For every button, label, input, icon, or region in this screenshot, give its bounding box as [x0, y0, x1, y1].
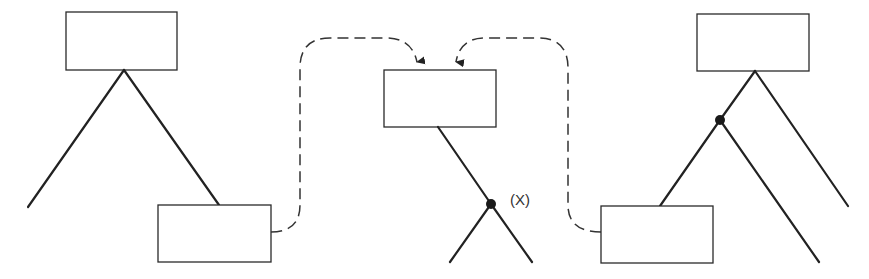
- left-tree-bottom-box: [158, 205, 271, 262]
- right-tree-upper-left-branch: [720, 71, 755, 120]
- left-tree-top-box: [66, 12, 177, 70]
- right-tree: [601, 14, 848, 263]
- middle-right-branch: [491, 204, 532, 262]
- diagram-canvas: (X): [0, 0, 869, 279]
- right-tree-bottom-box: [601, 206, 713, 263]
- right-tree-lower-left-branch: [660, 120, 720, 206]
- middle-box: [384, 70, 496, 127]
- left-tree: [28, 12, 271, 262]
- right-tree-top-box: [697, 14, 809, 71]
- right-tree-node: [715, 115, 725, 125]
- right-tree-right-branch: [755, 71, 848, 206]
- left-tree-left-branch: [28, 70, 124, 207]
- middle-left-branch: [450, 204, 491, 262]
- middle-tree: (X): [384, 70, 532, 262]
- middle-trunk: [438, 127, 491, 204]
- node-x-label: (X): [510, 191, 530, 208]
- left-dashed-arrow: [271, 38, 417, 232]
- node-x: [486, 199, 496, 209]
- left-tree-right-branch: [124, 70, 219, 205]
